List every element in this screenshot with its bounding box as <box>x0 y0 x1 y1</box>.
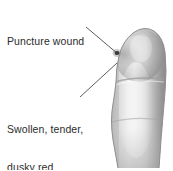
label-puncture-wound: Puncture wound <box>7 10 84 73</box>
label-swollen-tender-dusky-red: Swollen, tender, dusky red <box>7 98 83 170</box>
leader-line-swollen <box>80 63 117 97</box>
label-puncture-text: Puncture wound <box>7 35 84 48</box>
label-swollen-line2: dusky red <box>7 161 83 171</box>
medical-illustration-figure: Puncture wound Swollen, tender, dusky re… <box>0 0 173 170</box>
leader-line-puncture <box>86 27 118 54</box>
finger-body <box>107 20 170 170</box>
label-swollen-line1: Swollen, tender, <box>7 123 83 136</box>
